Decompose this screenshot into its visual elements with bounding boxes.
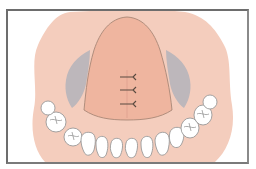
tooth-icon [96, 136, 108, 157]
dental-illustration [0, 0, 256, 169]
tooth-icon [125, 138, 137, 157]
tooth-icon [110, 138, 122, 157]
tooth-icon [141, 136, 153, 157]
tooth-icon [41, 101, 55, 115]
tooth-icon [203, 95, 217, 109]
